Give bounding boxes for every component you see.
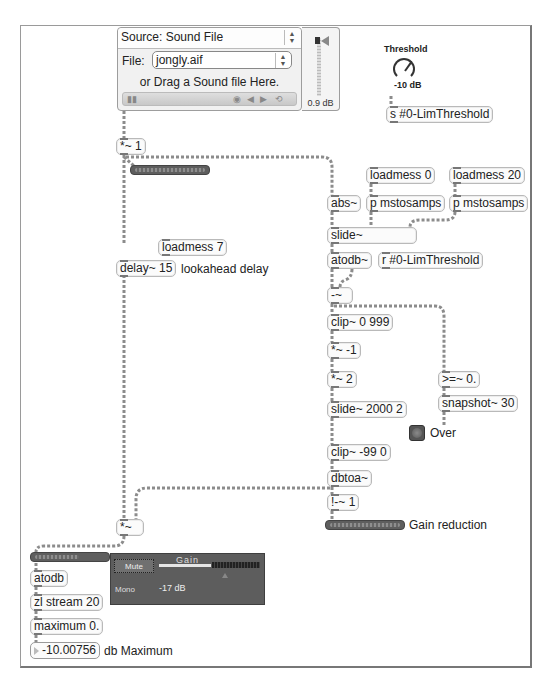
output-gain-slider[interactable]: 0.9 dB — [302, 27, 340, 111]
play-icon[interactable]: ▶ — [260, 93, 267, 105]
over-led[interactable] — [409, 425, 425, 441]
recv-threshold-object[interactable]: r #0-LimThreshold — [378, 252, 483, 269]
max-number-value: -10.00756 — [42, 643, 96, 657]
drag-hint: or Drag a Sound file Here. — [118, 75, 301, 89]
file-label: File: — [122, 54, 145, 68]
gain-slider[interactable] — [159, 564, 211, 567]
over-comment: Over — [430, 426, 456, 441]
gain-reduction-meter — [325, 520, 405, 530]
input-level-meter — [130, 165, 210, 175]
atodb-sig-object[interactable]: atodb~ — [327, 252, 372, 269]
threshold-value: -10 dB — [394, 80, 422, 90]
mul-2-object[interactable]: *~ 2 — [327, 371, 357, 388]
clip-neg99-object[interactable]: clip~ -99 0 — [327, 444, 391, 461]
zl-stream-object[interactable]: zl stream 20 — [30, 594, 103, 611]
loadmess-20-object[interactable]: loadmess 20 — [449, 167, 525, 184]
output-level-meter — [30, 552, 110, 562]
file-stepper-icon[interactable]: ▲▼ — [275, 53, 290, 68]
gain-reduction-comment: Gain reduction — [409, 518, 487, 533]
send-threshold-object[interactable]: s #0-LimThreshold — [386, 106, 493, 123]
snapshot-object[interactable]: snapshot~ 30 — [438, 395, 518, 412]
mstosamps-b-object[interactable]: p mstosamps — [449, 195, 528, 212]
file-menu[interactable]: jongly.aif ▲▼ — [152, 51, 292, 69]
transport-bar[interactable]: ▮▮ ◉ ◀ ▶ ⟲ — [122, 92, 297, 106]
mul-neg1-object[interactable]: *~ -1 — [327, 342, 361, 359]
gain-marker-icon — [222, 573, 228, 578]
db-maximum-comment: db Maximum — [104, 644, 173, 659]
source-menu[interactable]: Source: Sound File — [118, 28, 301, 49]
gain-value: -17 dB — [159, 583, 186, 593]
threshold-title: Threshold — [384, 44, 428, 54]
mute-button[interactable]: Mute — [114, 559, 154, 573]
loop-icon[interactable]: ⟲ — [275, 93, 283, 105]
rewind-icon[interactable]: ◀ — [247, 93, 254, 105]
rminus-1-object[interactable]: !-~ 1 — [327, 494, 359, 511]
abs-object[interactable]: abs~ — [327, 195, 361, 212]
sound-file-player[interactable]: Source: Sound File ▲▼ File: jongly.aif ▲… — [117, 27, 302, 111]
record-icon[interactable]: ◉ — [233, 93, 241, 105]
maximum-object[interactable]: maximum 0. — [30, 618, 103, 635]
mul-out-object[interactable]: *~ — [116, 519, 144, 536]
number-arrow-icon — [34, 647, 39, 655]
slider-pointer-icon — [321, 36, 329, 46]
delay-object[interactable]: delay~ 15 — [116, 260, 176, 277]
slide-2000-object[interactable]: slide~ 2000 2 — [327, 401, 407, 418]
source-label: Source: Sound File — [121, 30, 223, 44]
max-number-box[interactable]: -10.00756 — [30, 642, 100, 659]
gain-control-panel[interactable]: Gain Mute Mono -17 dB — [110, 553, 265, 605]
slider-knob[interactable] — [315, 37, 320, 44]
file-value: jongly.aif — [156, 53, 202, 67]
slider-track[interactable] — [317, 38, 321, 96]
loadmess-7-object[interactable]: loadmess 7 — [158, 239, 227, 256]
clip-0-999-object[interactable]: clip~ 0 999 — [327, 314, 393, 331]
source-stepper-icon[interactable]: ▲▼ — [284, 30, 299, 45]
gte-0-object[interactable]: >=~ 0. — [438, 371, 480, 388]
pause-icon[interactable]: ▮▮ — [127, 93, 137, 105]
slide-object[interactable]: slide~ — [327, 227, 417, 244]
gain-meter — [212, 562, 260, 568]
minus-object[interactable]: -~ — [327, 287, 353, 304]
mul-one-object[interactable]: *~ 1 — [116, 138, 146, 155]
lookahead-comment: lookahead delay — [181, 262, 268, 277]
mstosamps-a-object[interactable]: p mstosamps — [366, 195, 445, 212]
dbtoa-object[interactable]: dbtoa~ — [327, 470, 372, 487]
loadmess-0-object[interactable]: loadmess 0 — [366, 167, 435, 184]
slider-value: 0.9 dB — [302, 98, 339, 108]
mono-button[interactable]: Mono — [115, 585, 135, 594]
atodb-object[interactable]: atodb — [30, 570, 68, 587]
